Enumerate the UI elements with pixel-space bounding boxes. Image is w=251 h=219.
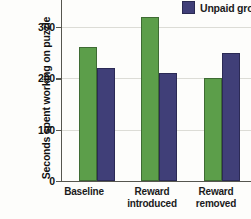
y-axis-title: Seconds spent working on puzzle	[40, 8, 52, 188]
bar-reward-introduced-unpaid	[159, 73, 177, 181]
bar-reward-introduced-paid	[141, 17, 159, 181]
x-label-reward-removed: Reward removed	[186, 186, 246, 209]
bar-reward-removed-unpaid	[222, 53, 240, 181]
plot-inner	[62, 0, 251, 181]
bar-reward-removed-paid	[204, 78, 222, 181]
bar-baseline-paid	[79, 47, 97, 181]
y-tick-label-200: 200	[15, 72, 55, 84]
y-tick-label-100: 100	[15, 124, 55, 136]
y-tick-label-0: 0	[15, 175, 55, 187]
bar-baseline-unpaid	[97, 68, 115, 181]
plot-area	[61, 0, 251, 182]
x-label-baseline: Baseline	[53, 186, 115, 198]
x-label-reward-introduced: Reward introduced	[122, 186, 182, 209]
y-tick-label-300: 300	[15, 21, 55, 33]
bar-chart: Unpaid group Seconds spent working on pu…	[0, 0, 251, 219]
